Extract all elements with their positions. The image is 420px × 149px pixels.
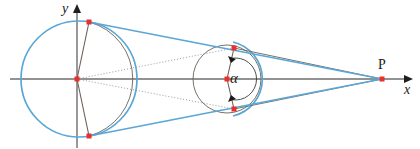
point-origin	[75, 77, 80, 82]
y-axis-label: y	[62, 2, 68, 16]
y-axis-arrowhead	[73, 4, 81, 13]
x-axis-label: x	[404, 83, 410, 97]
point-lower-tangency-small	[232, 107, 237, 112]
geometry-figure: y x P α	[0, 0, 420, 149]
gray-chord-lower-large	[77, 79, 89, 136]
dotted-ray-lower	[77, 79, 234, 109]
axes-group	[10, 4, 413, 148]
gray-chord-upper-large	[77, 22, 89, 79]
figure-canvas	[0, 0, 420, 149]
point-p-label: P	[378, 58, 386, 72]
point-upper-tangency-large	[87, 20, 92, 25]
angle-alpha-label: α	[230, 71, 238, 86]
point-upper-tangency-small	[232, 46, 237, 51]
point-small-circle-center	[225, 77, 230, 82]
point-lower-tangency-large	[87, 134, 92, 139]
point-external-P	[380, 77, 385, 82]
dotted-ray-upper	[77, 48, 234, 79]
